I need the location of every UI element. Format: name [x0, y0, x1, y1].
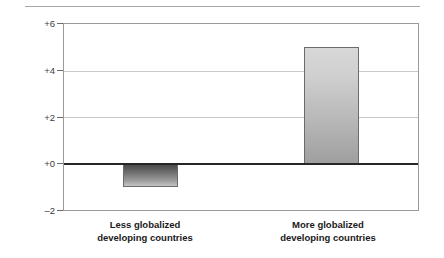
y-tick-label-0: +0 — [33, 159, 55, 169]
category-label-less-globalized: Less globalized developing countries — [70, 219, 220, 245]
bar-more-globalized — [304, 47, 359, 163]
chart-figure: Percent +6 +4 +2 +0 –2 Less globalized d… — [0, 0, 444, 258]
zero-baseline — [64, 163, 418, 165]
y-tick-label-6: +6 — [33, 19, 55, 29]
y-tick-label-minus-2: –2 — [33, 206, 55, 216]
bar-less-globalized — [123, 164, 178, 187]
category-label-more-line1: More globalized — [292, 219, 364, 230]
gridline-4 — [64, 71, 418, 72]
category-label-less-line2: developing countries — [70, 232, 220, 245]
y-tick-label-4: +4 — [33, 66, 55, 76]
top-divider-rule — [25, 6, 420, 7]
category-label-less-line1: Less globalized — [110, 219, 181, 230]
y-tick-label-2: +2 — [33, 113, 55, 123]
category-label-more-globalized: More globalized developing countries — [253, 219, 403, 245]
plot-area — [63, 23, 419, 211]
gridline-2 — [64, 117, 418, 118]
category-label-more-line2: developing countries — [253, 232, 403, 245]
